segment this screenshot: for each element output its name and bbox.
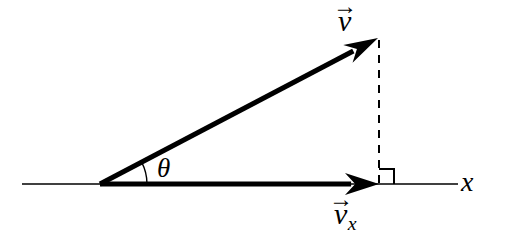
vector-v-arrow	[100, 38, 378, 184]
vector-vx-label: → v x	[334, 199, 357, 234]
vector-v-arrowhead	[343, 38, 378, 63]
theta-label: θ	[157, 155, 170, 182]
right-angle-marker	[379, 169, 394, 184]
vector-v-shaft	[100, 51, 353, 184]
theta-arc	[142, 162, 147, 184]
vector-accent-arrow-icon: →	[333, 0, 357, 18]
vector-accent-arrow-icon: →	[329, 187, 353, 211]
vector-vx-glyph-stack: → v	[334, 199, 347, 229]
vector-diagram-canvas	[0, 0, 506, 247]
vector-v-label: → v	[338, 6, 351, 36]
vector-diagram: → v → v x x θ	[0, 0, 506, 247]
x-axis-label: x	[461, 168, 473, 196]
vector-vx-subscript: x	[348, 212, 357, 234]
vector-v-glyph-stack: → v	[338, 6, 351, 36]
